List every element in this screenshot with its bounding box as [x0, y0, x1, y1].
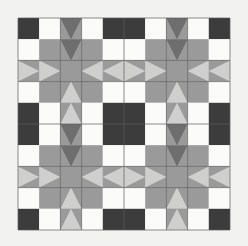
tile-dark-square — [124, 209, 145, 230]
tile-dark-square — [209, 18, 230, 39]
tile-white-square — [209, 82, 230, 103]
tile-medium-square — [188, 145, 209, 166]
tile-white-square — [124, 145, 145, 166]
tile-white-square — [124, 82, 145, 103]
tile-medium-square — [166, 60, 187, 81]
tile-white-square — [103, 82, 124, 103]
tile-medium-square — [60, 166, 81, 187]
tile-dark-square — [124, 18, 145, 39]
tile-white-square — [18, 145, 39, 166]
tile-medium-square — [82, 39, 103, 60]
tile-medium-square — [166, 166, 187, 187]
tile-white-square — [18, 39, 39, 60]
tile-white-square — [18, 82, 39, 103]
tile-dark-square — [103, 103, 124, 124]
tile-white-square — [188, 209, 209, 230]
tile-white-square — [209, 39, 230, 60]
tile-white-square — [103, 39, 124, 60]
tile-white-square — [103, 145, 124, 166]
tile-medium-square — [82, 145, 103, 166]
tile-white-square — [39, 18, 60, 39]
quilt-pattern-svg: Quilt Block Pattern — [0, 0, 248, 246]
tile-medium-square — [188, 39, 209, 60]
tile-white-square — [39, 124, 60, 145]
tile-medium-square — [39, 145, 60, 166]
tile-dark-square — [209, 103, 230, 124]
tile-dark-square — [18, 103, 39, 124]
tile-white-square — [145, 103, 166, 124]
tile-medium-square — [145, 39, 166, 60]
tile-medium-square — [39, 39, 60, 60]
tile-dark-square — [124, 124, 145, 145]
tile-medium-square — [145, 82, 166, 103]
tile-white-square — [209, 145, 230, 166]
tile-medium-square — [188, 82, 209, 103]
tile-medium-square — [145, 145, 166, 166]
tile-white-square — [103, 188, 124, 209]
tile-dark-square — [103, 124, 124, 145]
tile-dark-square — [103, 18, 124, 39]
tile-white-square — [145, 18, 166, 39]
tile-white-square — [124, 188, 145, 209]
tile-medium-square — [39, 188, 60, 209]
tile-medium-square — [188, 188, 209, 209]
tile-white-square — [188, 18, 209, 39]
tile-white-square — [209, 188, 230, 209]
tile-dark-square — [209, 209, 230, 230]
tile-dark-square — [18, 209, 39, 230]
tile-dark-square — [209, 124, 230, 145]
tile-dark-square — [18, 18, 39, 39]
tile-white-square — [39, 103, 60, 124]
tile-white-square — [82, 18, 103, 39]
tile-white-square — [188, 124, 209, 145]
tile-medium-square — [39, 82, 60, 103]
tile-dark-square — [124, 103, 145, 124]
tile-medium-square — [82, 188, 103, 209]
tile-white-square — [188, 103, 209, 124]
tile-medium-square — [145, 188, 166, 209]
tile-white-square — [145, 124, 166, 145]
tile-white-square — [18, 188, 39, 209]
tile-white-square — [82, 103, 103, 124]
tile-medium-square — [60, 60, 81, 81]
tile-medium-square — [82, 82, 103, 103]
tile-white-square — [145, 209, 166, 230]
tile-white-square — [82, 209, 103, 230]
tile-dark-square — [103, 209, 124, 230]
tile-white-square — [124, 39, 145, 60]
quilt-artwork: Quilt Block Pattern — [0, 0, 248, 246]
tile-dark-square — [18, 124, 39, 145]
tile-white-square — [82, 124, 103, 145]
tile-white-square — [39, 209, 60, 230]
